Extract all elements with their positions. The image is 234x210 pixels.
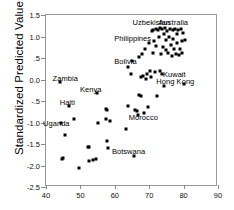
data-point bbox=[88, 146, 91, 149]
point-annotation: Haiti bbox=[60, 97, 75, 106]
y-tick bbox=[41, 101, 46, 102]
point-annotation: Zambia bbox=[53, 74, 78, 83]
data-point bbox=[108, 120, 111, 123]
data-point bbox=[144, 47, 147, 50]
y-tick-label: -.5 bbox=[31, 97, 40, 106]
data-point bbox=[172, 48, 175, 51]
data-point bbox=[155, 44, 158, 47]
data-point bbox=[179, 27, 182, 30]
point-annotation: Uganda bbox=[43, 118, 70, 127]
data-point bbox=[183, 38, 186, 41]
data-point bbox=[145, 77, 148, 80]
data-point bbox=[61, 156, 64, 159]
data-point bbox=[175, 33, 178, 36]
point-annotation: Kenya bbox=[80, 84, 102, 93]
data-point bbox=[172, 37, 175, 40]
x-tick-label: 50 bbox=[76, 191, 84, 200]
data-point bbox=[137, 56, 140, 59]
y-tick bbox=[41, 37, 46, 38]
x-tick bbox=[115, 185, 116, 189]
data-point bbox=[64, 133, 67, 136]
data-point bbox=[156, 94, 159, 97]
data-point bbox=[125, 127, 128, 130]
data-point bbox=[73, 118, 76, 121]
x-tick-label: 80 bbox=[179, 191, 187, 200]
y-tick-label: -2.0 bbox=[27, 161, 40, 170]
data-point bbox=[94, 158, 97, 161]
y-axis-title: Standardized Predicted Value bbox=[13, 0, 25, 163]
x-tick-label: 40 bbox=[42, 191, 50, 200]
x-tick bbox=[218, 185, 219, 189]
y-tick-label: 1.0 bbox=[30, 32, 40, 41]
data-point bbox=[105, 109, 108, 112]
point-annotation: Botswana bbox=[112, 146, 145, 155]
data-point bbox=[126, 105, 129, 108]
y-tick-label: 0.0 bbox=[30, 75, 40, 84]
y-tick bbox=[41, 15, 46, 16]
y-tick-label: .5 bbox=[34, 54, 40, 63]
data-point bbox=[180, 51, 183, 54]
data-point bbox=[129, 73, 132, 76]
data-point bbox=[168, 35, 171, 38]
data-point bbox=[87, 160, 90, 163]
y-tick-label: -1.0 bbox=[27, 118, 40, 127]
data-point bbox=[153, 39, 156, 42]
data-point bbox=[106, 147, 109, 150]
point-annotation: Morocco bbox=[129, 113, 158, 122]
data-point bbox=[178, 47, 181, 50]
x-tick bbox=[80, 185, 81, 189]
data-point bbox=[176, 41, 179, 44]
data-point bbox=[165, 38, 168, 41]
y-tick bbox=[41, 144, 46, 145]
data-point bbox=[170, 54, 173, 57]
data-point bbox=[169, 44, 172, 47]
scatter-chart: Standardized Predicted Value 1.51.0.50.0… bbox=[0, 0, 234, 210]
data-point bbox=[105, 118, 108, 121]
data-point bbox=[139, 94, 142, 97]
data-point bbox=[97, 121, 100, 124]
data-point bbox=[153, 70, 156, 73]
data-point bbox=[166, 30, 169, 33]
data-point bbox=[149, 76, 152, 79]
y-tick bbox=[41, 166, 46, 167]
data-point bbox=[159, 52, 162, 55]
y-tick-label: 1.5 bbox=[30, 11, 40, 20]
y-tick-label: -1.5 bbox=[27, 140, 40, 149]
data-point bbox=[157, 36, 160, 39]
data-point bbox=[163, 33, 166, 36]
x-tick bbox=[149, 185, 150, 189]
data-point bbox=[145, 73, 148, 76]
plot-area: 1.51.0.50.0-.5-1.0-1.5-2.0-2.5 405060708… bbox=[45, 14, 217, 186]
point-annotation: Australia bbox=[158, 18, 188, 27]
data-point bbox=[152, 51, 155, 54]
x-tick bbox=[46, 185, 47, 189]
y-tick bbox=[41, 58, 46, 59]
point-annotation: Bolivia bbox=[114, 57, 136, 66]
data-point bbox=[181, 32, 184, 35]
data-point bbox=[148, 69, 151, 72]
data-point bbox=[162, 85, 165, 88]
data-point bbox=[140, 52, 143, 55]
data-point bbox=[105, 139, 108, 142]
y-tick-label: -2.5 bbox=[27, 183, 40, 192]
point-annotation: Hong Kong bbox=[156, 76, 194, 85]
x-tick-label: 70 bbox=[145, 191, 153, 200]
x-tick-label: 90 bbox=[214, 191, 222, 200]
x-tick bbox=[184, 185, 185, 189]
y-tick bbox=[41, 80, 46, 81]
x-tick-label: 60 bbox=[111, 191, 119, 200]
data-point bbox=[146, 106, 149, 109]
data-point bbox=[78, 166, 81, 169]
point-annotation: Philippines bbox=[114, 33, 151, 42]
